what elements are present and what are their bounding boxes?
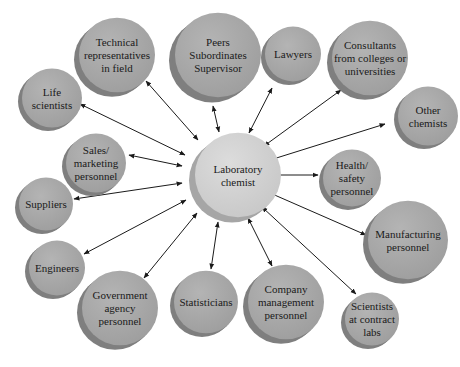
node-label: Companymanagementpersonnel [258,283,314,321]
node-government-agency: Governmentagencypersonnel [77,271,158,350]
center-node-laboratory-chemist: Laboratorychemist [189,133,281,223]
node-label-line: agency [104,302,136,314]
node-label: Statisticians [179,296,232,308]
node-label-line: representatives [84,49,150,61]
node-label-line: Health/ [336,159,369,171]
node-label-line: safety [339,172,366,184]
node-label-line: Supervisor [194,62,242,74]
node-lawyers: Lawyers [261,27,321,85]
node-label-line: personnel [75,170,118,182]
node-label-line: Government [93,289,148,301]
node-label-line: universities [345,65,396,77]
node-label-line: Life [43,86,61,98]
edge-company-management [248,218,272,266]
node-label-line: Sales/ [83,144,110,156]
node-label-line: at contract [349,313,395,325]
node-technical-representatives: Technicalrepresentativesin field [74,18,155,97]
node-label-line: from colleges or [334,52,406,64]
node-label-line: personnel [99,315,142,327]
node-label-line: chemist [221,176,255,188]
node-label: Engineers [35,262,79,274]
node-label-line: Scientists [351,300,393,312]
node-company-management: Companymanagementpersonnel [243,265,324,344]
node-label-line: Technical [96,36,139,48]
edge-statisticians [211,222,218,269]
node-scientists-contract-labs: Scientistsat contractlabs [341,293,399,350]
node-label-line: marketing [74,157,119,169]
node-consultants: Consultantsfrom colleges oruniversities [327,21,408,100]
relationship-diagram: Technicalrepresentativesin fieldPeersSub… [0,0,460,367]
node-label-line: Statisticians [179,296,232,308]
node-label: Suppliers [25,198,67,210]
node-label-line: personnel [387,241,430,253]
node-manufacturing: Manufacturingpersonnel [363,201,448,284]
node-label-line: personnel [331,185,374,197]
node-sales-marketing: Sales/marketingpersonnel [62,134,126,196]
node-suppliers: Suppliers [15,178,73,235]
node-label-line: Manufacturing [375,228,441,240]
node-label-line: management [258,296,314,308]
node-peers-subordinates-supervisor: PeersSubordinatesSupervisor [169,13,261,103]
edge-consultants [264,90,341,146]
center-layer: Laboratorychemist [189,133,281,223]
edge-government-agency [144,213,197,278]
node-label-line: Subordinates [189,49,246,61]
edge-peers-subordinates-supervisor [213,106,219,132]
node-label: Lawyers [274,48,312,60]
node-other-chemists: Otherchemists [394,87,458,149]
node-label-line: chemists [409,117,448,129]
node-label-line: labs [363,326,381,338]
node-engineers: Engineers [25,241,85,299]
node-label-line: Lawyers [274,48,312,60]
node-statisticians: Statisticians [170,271,238,337]
node-label-line: Other [415,104,440,116]
node-label-line: Company [265,283,308,295]
node-health-safety: Health/safetypersonnel [319,150,381,210]
edge-sales-marketing [129,155,182,166]
node-label-line: personnel [265,309,308,321]
node-label-line: Laboratory [214,163,263,175]
node-label-line: Consultants [344,39,396,51]
node-label-line: Peers [206,36,230,48]
node-life-scientists: Lifescientists [18,69,82,131]
node-label-line: Engineers [35,262,79,274]
node-label-line: scientists [32,99,72,111]
node-label-line: in field [101,62,133,74]
node-label-line: Suppliers [25,198,67,210]
edge-lawyers [249,88,272,133]
